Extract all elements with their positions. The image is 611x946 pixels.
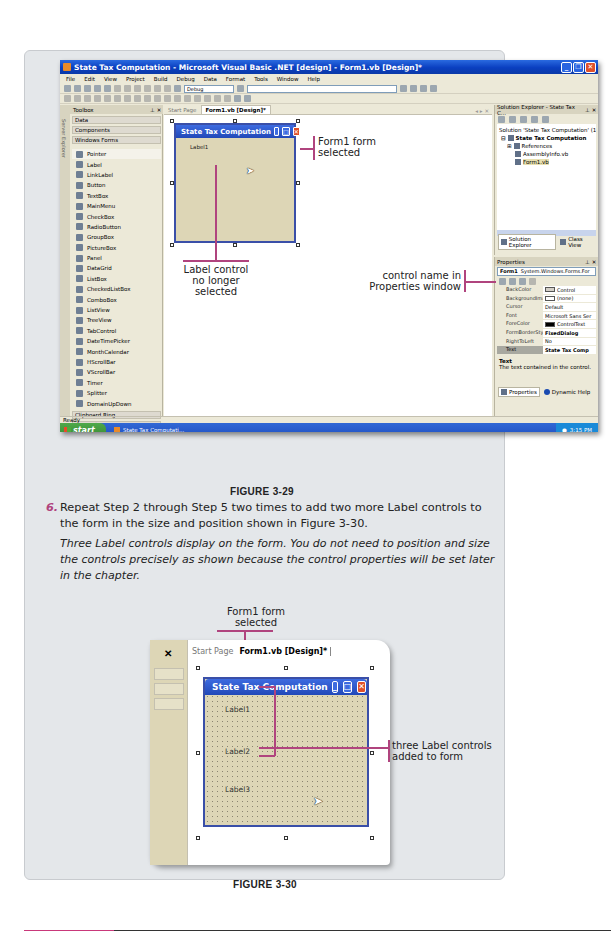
center-h-icon[interactable]: [194, 95, 201, 102]
toolbox-item-checkedlistbox[interactable]: CheckedListBox: [72, 284, 161, 294]
restore-button[interactable]: ❐: [573, 62, 584, 73]
taskbar-item-vs[interactable]: State Tax Computati...: [114, 427, 184, 432]
resize-handle[interactable]: [284, 836, 288, 840]
resize-handle[interactable]: [196, 666, 200, 670]
minimize-button[interactable]: _: [561, 62, 572, 73]
toolbox-item-picturebox[interactable]: PictureBox: [72, 243, 161, 253]
scroll-up-button[interactable]: [154, 683, 184, 695]
toolbox-item-hscrollbar[interactable]: HScrollBar: [72, 357, 161, 367]
tree-item-project[interactable]: ⊟State Tax Computation: [497, 134, 596, 142]
toolbox-item-domainupdown[interactable]: DomainUpDown: [72, 398, 161, 408]
toolbox-item-combobox[interactable]: ComboBox: [72, 294, 161, 304]
property-row-backcolor[interactable]: BackColorControl: [497, 286, 596, 295]
start-icon[interactable]: [174, 85, 181, 92]
collapse-icon[interactable]: ⊟: [501, 135, 506, 141]
resize-handle[interactable]: [370, 666, 374, 670]
align-center-icon[interactable]: [84, 95, 91, 102]
same-size-icon[interactable]: [154, 95, 161, 102]
menu-project[interactable]: Project: [126, 76, 145, 82]
paste-icon[interactable]: [134, 85, 141, 92]
align-top-icon[interactable]: [104, 95, 111, 102]
tab-dynamic-help[interactable]: Dynamic Help: [542, 388, 593, 396]
center-v-icon[interactable]: [204, 95, 211, 102]
tab-order-icon[interactable]: [234, 95, 241, 102]
toolbox-item-mainmenu[interactable]: MainMenu: [72, 201, 161, 211]
tree-item-references[interactable]: ⊞References: [497, 142, 596, 150]
align-grid-icon[interactable]: [64, 95, 71, 102]
menu-data[interactable]: Data: [204, 76, 217, 82]
toolbox-tab-components[interactable]: Components: [72, 126, 161, 134]
save-icon[interactable]: [94, 85, 101, 92]
menu-view[interactable]: View: [104, 76, 117, 82]
show-all-files-icon[interactable]: [531, 116, 538, 123]
label1-control[interactable]: Label1: [190, 144, 208, 150]
tab-start-page[interactable]: Start Page: [164, 106, 201, 114]
object-selector-combo[interactable]: Form1System.Windows.Forms.For: [497, 267, 596, 276]
view-designer-icon[interactable]: [509, 116, 516, 123]
form1-designer[interactable]: State Tax Computation _ □ ✕ Label1 ➤: [174, 123, 296, 243]
same-height-icon[interactable]: [144, 95, 151, 102]
alphabetical-icon[interactable]: [509, 278, 516, 285]
toolbox-item-listview[interactable]: ListView: [72, 305, 161, 315]
find-combo[interactable]: [247, 85, 397, 93]
menu-file[interactable]: File: [66, 76, 75, 82]
property-row-forecolor[interactable]: ForeColorControlText: [497, 320, 596, 329]
toolbox-item-listbox[interactable]: ListBox: [72, 274, 161, 284]
resize-handle[interactable]: [296, 119, 300, 123]
toolbox-item-label[interactable]: Label: [72, 159, 161, 169]
bring-front-icon[interactable]: [214, 95, 221, 102]
v-spacing-icon[interactable]: [184, 95, 191, 102]
new-project-icon[interactable]: [64, 85, 71, 92]
resize-handle[interactable]: [370, 751, 374, 755]
toolbox-item-treeview[interactable]: TreeView: [72, 315, 161, 325]
property-row-formborderstyle[interactable]: FormBorderStyleFixedDialog: [497, 329, 596, 338]
pin-icon[interactable]: ⊥: [585, 107, 590, 113]
resize-handle[interactable]: [296, 181, 300, 185]
find-icon[interactable]: [237, 85, 244, 92]
property-pages-icon[interactable]: [529, 278, 536, 285]
send-back-icon[interactable]: [224, 95, 231, 102]
toolbox-tab-windows-forms[interactable]: Windows Forms: [72, 136, 161, 144]
toolbox-item-monthcalendar[interactable]: MonthCalendar: [72, 346, 161, 356]
refresh-icon[interactable]: [520, 116, 527, 123]
tree-item-form1[interactable]: Form1.vb: [497, 158, 596, 166]
menu-debug[interactable]: Debug: [177, 76, 195, 82]
h-spacing-icon[interactable]: [174, 95, 181, 102]
tab-solution-explorer[interactable]: Solution Explorer: [498, 234, 556, 250]
same-width-icon[interactable]: [134, 95, 141, 102]
toolbox-item-linklabel[interactable]: LinkLabel: [72, 170, 161, 180]
tab-nav-arrows[interactable]: ◂ ▸ ✕: [475, 108, 492, 114]
properties-view-icon[interactable]: [519, 278, 526, 285]
undo-icon[interactable]: [144, 85, 151, 92]
label2-control[interactable]: Label2: [225, 747, 250, 756]
toolbox-item-vscrollbar[interactable]: VScrollBar: [72, 367, 161, 377]
tab-properties[interactable]: Properties: [498, 387, 540, 397]
start-button[interactable]: start: [60, 423, 106, 432]
tree-item-solution[interactable]: Solution 'State Tax Computation' (1 p: [497, 126, 596, 134]
align-bottom-icon[interactable]: [124, 95, 131, 102]
toolbox-item-splitter[interactable]: Splitter: [72, 388, 161, 398]
menu-window[interactable]: Window: [277, 76, 299, 82]
tab-class-view[interactable]: Class View: [558, 235, 598, 249]
property-row-backgroundimage[interactable]: BackgroundImage(none): [497, 295, 596, 304]
config-combo[interactable]: Debug: [184, 85, 234, 93]
add-item-icon[interactable]: [74, 85, 81, 92]
class-view-icon[interactable]: [430, 85, 437, 92]
toolbox-icon[interactable]: [420, 85, 427, 92]
property-row-righttoleft[interactable]: RightToLeftNo: [497, 338, 596, 347]
tab-form1-design[interactable]: Form1.vb [Design]*: [239, 647, 331, 656]
toolbox-item-panel[interactable]: Panel: [72, 253, 161, 263]
tab-form1-design[interactable]: Form1.vb [Design]*: [201, 105, 271, 114]
toolbox-item-timer[interactable]: Timer: [72, 378, 161, 388]
close-button[interactable]: ✕: [585, 62, 596, 73]
resize-handle[interactable]: [196, 836, 200, 840]
align-right-icon[interactable]: [94, 95, 101, 102]
resize-handle[interactable]: [233, 243, 237, 247]
align-left-icon[interactable]: [74, 95, 81, 102]
tree-item-assemblyinfo[interactable]: AssemblyInfo.vb: [497, 150, 596, 158]
redo-icon[interactable]: [154, 85, 161, 92]
properties-icon[interactable]: [542, 116, 549, 123]
toolbox-item-datagrid[interactable]: DataGrid: [72, 263, 161, 273]
close-icon[interactable]: ✕: [592, 107, 597, 113]
lock-controls-icon[interactable]: [244, 95, 251, 102]
